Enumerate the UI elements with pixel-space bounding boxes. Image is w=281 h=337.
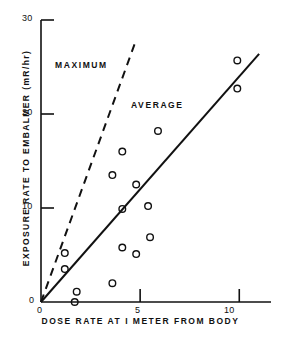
y-axis-title-wrapper: EXPOSURE RATE TO EMBALMER (mR/hr) [15, 8, 29, 308]
data-point [73, 288, 80, 295]
x-axis-title: DOSE RATE AT I METER FROM BODY [0, 316, 281, 326]
y-axis-title: EXPOSURE RATE TO EMBALMER (mR/hr) [21, 50, 31, 266]
x-tick-label-5: 5 [135, 305, 140, 315]
average-series-label: AVERAGE [131, 100, 184, 110]
average-trend-line [41, 54, 259, 302]
data-point [145, 203, 152, 210]
maximum-series-label: MAXIMUM [55, 60, 108, 70]
data-point [155, 128, 162, 135]
data-point [109, 280, 116, 287]
data-point [133, 181, 140, 188]
data-point [234, 57, 241, 64]
chart-figure: 30 20 10 0 0 5 10 MAXIMUM AVERAGE DOSE R… [0, 0, 281, 337]
x-tick-label-10: 10 [224, 305, 234, 315]
data-point [147, 234, 154, 241]
data-point [234, 85, 241, 92]
scatter-plot-canvas [0, 0, 281, 337]
data-point [119, 244, 126, 251]
y-tick-label-0: 0 [29, 295, 34, 305]
data-point [119, 148, 126, 155]
data-point [133, 251, 140, 258]
maximum-trend-line [41, 43, 135, 302]
x-tick-label-0: 0 [37, 305, 42, 315]
data-points-group [61, 57, 240, 305]
data-point [61, 266, 68, 273]
data-point [61, 250, 68, 257]
series-lines-group [41, 43, 259, 302]
data-point [109, 172, 116, 179]
